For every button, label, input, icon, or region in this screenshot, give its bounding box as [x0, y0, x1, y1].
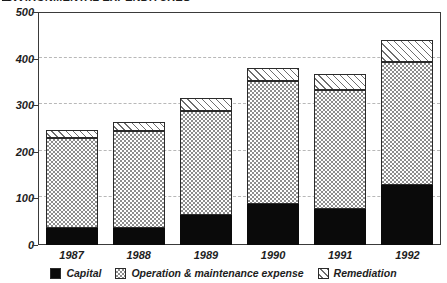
bar-segment-capital[interactable] [113, 228, 165, 245]
y-axis-tick-label: 200 [0, 146, 34, 158]
bar-segment-om[interactable] [180, 111, 232, 215]
bars-layer [38, 12, 441, 245]
bar-segment-remediation[interactable] [46, 130, 98, 138]
bar-segment-om[interactable] [46, 138, 98, 228]
bar-1992[interactable] [381, 40, 433, 245]
x-axis-tick-label: 1991 [307, 249, 374, 261]
x-axis-tick-label: 1992 [374, 249, 441, 261]
y-axis-tick-label: 0 [0, 239, 34, 251]
x-axis-tick-label: 1989 [172, 249, 239, 261]
legend-item-operation-maintenance-expense[interactable]: Operation & maintenance expense [115, 267, 303, 279]
legend-label: Capital [66, 267, 101, 279]
y-axis-tick-label: 500 [0, 6, 34, 18]
hatched-square-icon [318, 268, 329, 279]
bar-1991[interactable] [314, 74, 366, 245]
bar-segment-om[interactable] [381, 62, 433, 185]
y-axis-tick-label: 100 [0, 192, 34, 204]
bar-segment-capital[interactable] [381, 185, 433, 245]
bar-segment-capital[interactable] [180, 215, 232, 245]
bar-segment-remediation[interactable] [381, 40, 433, 62]
bar-1988[interactable] [113, 122, 165, 245]
legend-item-capital[interactable]: Capital [50, 267, 101, 279]
bar-segment-capital[interactable] [314, 209, 366, 245]
bar-1987[interactable] [46, 130, 98, 245]
chart-title-strip: ENVIRONMENTAL EXPENDITURES [0, 0, 447, 4]
bar-segment-om[interactable] [314, 90, 366, 209]
x-axis-tick-label: 1990 [240, 249, 307, 261]
bar-segment-om[interactable] [113, 131, 165, 228]
bar-segment-remediation[interactable] [247, 68, 299, 81]
bar-segment-remediation[interactable] [314, 74, 366, 90]
bar-segment-capital[interactable] [247, 204, 299, 245]
y-axis-tick-label: 400 [0, 53, 34, 65]
environmental-expenditures-chart: ENVIRONMENTAL EXPENDITURES 0100200300400… [0, 0, 447, 283]
bar-segment-remediation[interactable] [180, 98, 232, 111]
x-axis-tick-label: 1987 [38, 249, 105, 261]
checkered-square-icon [115, 268, 126, 279]
y-axis-tick-label: 300 [0, 99, 34, 111]
legend-item-remediation[interactable]: Remediation [318, 267, 397, 279]
chart-legend: CapitalOperation & maintenance expenseRe… [0, 265, 447, 281]
x-axis: 198719881989199019911992 [38, 246, 441, 264]
legend-label: Remediation [334, 267, 397, 279]
x-axis-tick-label: 1988 [105, 249, 172, 261]
bar-1989[interactable] [180, 98, 232, 245]
bar-segment-capital[interactable] [46, 228, 98, 245]
page-title: ENVIRONMENTAL EXPENDITURES [2, 0, 191, 3]
solid-square-icon [50, 268, 61, 279]
bar-1990[interactable] [247, 68, 299, 245]
bar-segment-om[interactable] [247, 81, 299, 204]
bar-segment-remediation[interactable] [113, 122, 165, 130]
legend-label: Operation & maintenance expense [131, 267, 303, 279]
